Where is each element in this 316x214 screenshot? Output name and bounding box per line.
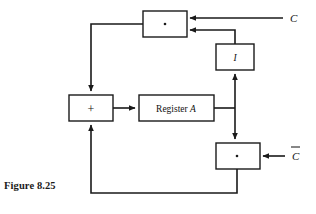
wire-and-bottom-to-adder — [91, 125, 237, 193]
adder-block[interactable]: + — [69, 95, 113, 121]
inverter-block[interactable]: I — [216, 44, 254, 70]
and-gate-top-block[interactable] — [143, 11, 187, 37]
signal-label-c: C — [290, 12, 298, 24]
signal-label-c-bar: C — [291, 147, 300, 162]
adder-label: + — [88, 102, 95, 116]
register-a-label: Register A — [156, 104, 196, 114]
and-top-dot-icon — [164, 23, 167, 26]
register-a-block[interactable]: Register A — [139, 95, 214, 121]
c-bar-label: C — [292, 150, 300, 162]
and-gate-bottom-block[interactable] — [216, 143, 260, 169]
figure-caption: Figure 8.25 — [4, 180, 56, 191]
and-bottom-dot-icon — [236, 155, 239, 158]
wire-inverter-to-and-top — [190, 30, 235, 44]
wire-and-top-to-adder — [91, 24, 143, 91]
figure-container: I + Register A C C Figure 8.25 — [0, 0, 316, 214]
c-label: C — [290, 12, 298, 24]
